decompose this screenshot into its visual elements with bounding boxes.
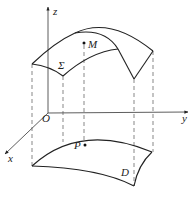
point-m-label: M [87,38,98,50]
surface-sigma [32,27,153,79]
surface-label: Σ [57,59,65,71]
x-axis-label: x [7,152,13,164]
axes [5,7,188,154]
surface-projection-diagram: z y x O Σ M P D [0,0,192,204]
origin-label: O [42,112,50,124]
projection-lines [32,45,153,186]
point-p-dot [84,144,87,147]
y-axis-label: y [181,112,187,124]
region-d-label: D [120,166,129,178]
z-axis-label: z [52,5,58,17]
y-axis [48,112,188,113]
point-m-dot [83,42,86,45]
point-p-label: P [73,139,81,151]
